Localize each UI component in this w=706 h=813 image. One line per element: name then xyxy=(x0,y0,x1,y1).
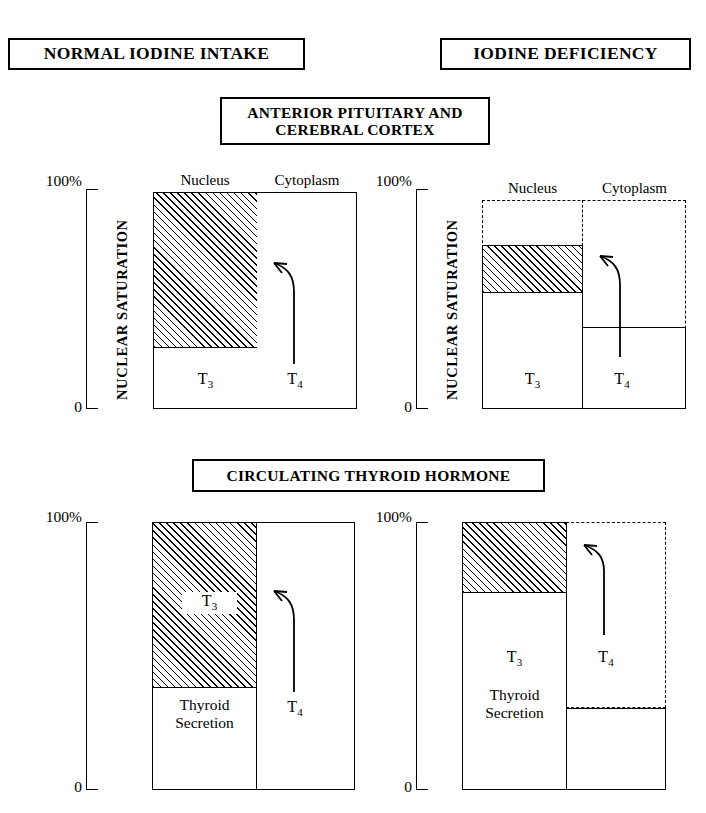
label-t4-top-left: T4 xyxy=(265,370,325,390)
label-thyroid-secretion-bottom-left: Thyroid Secretion xyxy=(152,696,257,733)
label-t3-top-left: T3 xyxy=(153,370,258,390)
bar-segment-nucleus-hatched-top-left xyxy=(153,192,258,348)
axis-min-label-top-right: 0 xyxy=(360,398,412,416)
label-t3-top-right: T3 xyxy=(482,370,583,390)
bar-segment-nucleus-hatched-top-right xyxy=(482,245,583,293)
diagram-canvas: NORMAL IODINE INTAKE IODINE DEFICIENCY A… xyxy=(0,0,706,813)
y-axis-bracket-bottom-left xyxy=(86,522,98,790)
thyroid-secretion-line2-right: Secretion xyxy=(462,704,567,722)
axis-max-label-top-left: 100% xyxy=(30,172,82,190)
label-t4-bottom-left: T4 xyxy=(265,698,325,718)
thyroid-secretion-line1: Thyroid xyxy=(152,696,257,714)
axis-min-label-top-left: 0 xyxy=(30,398,82,416)
label-t3-bottom-left: T3 xyxy=(182,592,237,614)
bar-t4-bottom-right xyxy=(567,708,666,790)
conversion-arrow-icon-top-right xyxy=(584,245,644,357)
y-axis-title-top-right: NUCLEAR SATURATION xyxy=(444,219,461,400)
thyroid-secretion-line2: Secretion xyxy=(152,714,257,732)
column-header-nucleus-top-left: Nucleus xyxy=(153,172,257,189)
axis-max-label-bottom-left: 100% xyxy=(30,508,82,526)
column-header-cytoplasm-top-right: Cytoplasm xyxy=(583,180,686,197)
chart-bottom-right-deficiency-circulating-hormone: 100% 0 T3 Thyroid Secretion T4 xyxy=(360,440,706,813)
column-header-cytoplasm-top-left: Cytoplasm xyxy=(257,172,357,189)
conversion-arrow-icon-bottom-left xyxy=(258,580,318,692)
column-header-nucleus-top-right: Nucleus xyxy=(482,180,583,197)
reference-divider-dashed-top-right xyxy=(582,200,583,246)
label-t3-bottom-right: T3 xyxy=(462,648,567,668)
y-axis-title-top-left: NUCLEAR SATURATION xyxy=(114,219,131,400)
axis-max-label-top-right: 100% xyxy=(360,172,412,190)
y-axis-bracket-bottom-right xyxy=(416,522,428,790)
label-t4-top-right: T4 xyxy=(592,370,652,390)
label-thyroid-secretion-bottom-right: Thyroid Secretion xyxy=(462,686,567,723)
conversion-arrow-icon-bottom-right xyxy=(568,535,628,635)
chart-top-right-deficiency-nuclear-saturation: 100% 0 NUCLEAR SATURATION Nucleus Cytopl… xyxy=(360,0,706,440)
axis-min-label-bottom-left: 0 xyxy=(30,778,82,796)
y-axis-bracket-top-left xyxy=(86,189,98,409)
y-axis-bracket-top-right xyxy=(416,189,428,409)
label-t4-bottom-right: T4 xyxy=(576,648,636,668)
thyroid-secretion-line1-right: Thyroid xyxy=(462,686,567,704)
conversion-arrow-icon-top-left xyxy=(258,252,318,364)
bar-segment-t3-hatched-bottom-right xyxy=(462,522,567,593)
chart-top-left-normal-nuclear-saturation: 100% 0 NUCLEAR SATURATION Nucleus Cytopl… xyxy=(0,0,360,440)
chart-bottom-left-normal-circulating-hormone: 100% 0 T3 Thyroid Secretion T4 xyxy=(0,440,360,813)
axis-max-label-bottom-right: 100% xyxy=(360,508,412,526)
axis-min-label-bottom-right: 0 xyxy=(360,778,412,796)
